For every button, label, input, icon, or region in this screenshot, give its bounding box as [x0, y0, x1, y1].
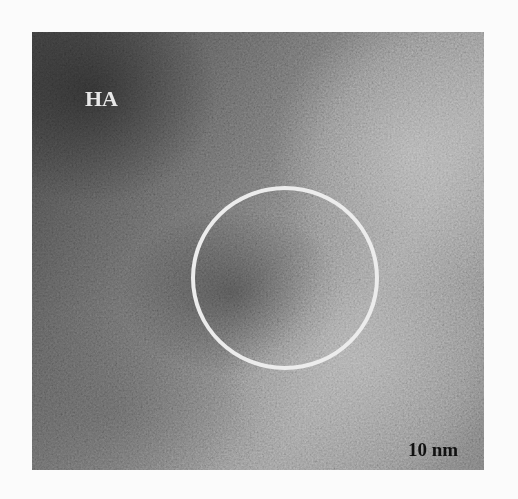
tem-micrograph: HA 10 nm [32, 32, 484, 470]
highlight-circle [191, 186, 379, 370]
panel-label: HA [85, 86, 118, 112]
scale-bar-label: 10 nm [408, 439, 458, 461]
